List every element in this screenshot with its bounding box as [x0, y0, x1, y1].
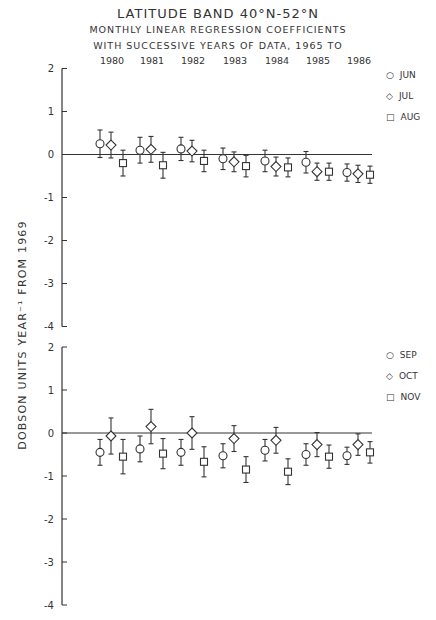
square-marker-icon [285, 164, 292, 171]
legend-item-jul: ◇JUL [386, 85, 420, 106]
y-tick-label: 2 [48, 63, 54, 74]
diamond-marker-icon [312, 440, 322, 450]
diamond-marker-icon [271, 435, 281, 445]
circle-marker-icon [136, 146, 144, 154]
y-tick-label: -1 [44, 192, 54, 203]
diamond-marker-icon [353, 440, 363, 450]
circle-marker-icon [96, 140, 104, 148]
circle-marker-icon [177, 448, 185, 456]
circle-marker-icon [261, 446, 269, 454]
y-tick-label: -4 [44, 321, 54, 332]
circle-marker-icon: ○ [386, 70, 394, 80]
circle-marker-icon [136, 445, 144, 453]
y-tick-label: -3 [44, 278, 54, 289]
circle-marker-icon [343, 452, 351, 460]
square-marker-icon [160, 450, 167, 457]
y-tick-label: -4 [44, 600, 54, 611]
diamond-marker-icon [229, 434, 239, 444]
circle-marker-icon [177, 145, 185, 153]
plot-area: 210-1-2-3-4210-1-2-3-4 [0, 0, 436, 620]
legend-item-nov: □NOV [386, 386, 420, 407]
chart-panel-1: 210-1-2-3-4 [44, 63, 373, 332]
circle-marker-icon [302, 158, 310, 166]
chart-panel-2: 210-1-2-3-4 [44, 342, 373, 611]
legend-item-jun: ○JUN [386, 64, 420, 85]
circle-marker-icon [96, 448, 104, 456]
square-marker-icon [243, 163, 250, 170]
diamond-marker-icon [229, 157, 239, 167]
legend-item-aug: □AUG [386, 106, 420, 127]
y-tick-label: -2 [44, 514, 54, 525]
y-tick-label: -3 [44, 557, 54, 568]
y-tick-label: -1 [44, 471, 54, 482]
legend-top: ○JUN ◇JUL □AUG [386, 64, 420, 127]
diamond-marker-icon [187, 428, 197, 438]
legend-bottom: ○SEP ◇OCT □NOV [386, 344, 420, 407]
diamond-marker-icon [106, 140, 116, 150]
square-marker-icon [120, 160, 127, 167]
y-tick-label: 0 [48, 149, 54, 160]
diamond-marker-icon [312, 167, 322, 177]
y-tick-label: 1 [48, 385, 54, 396]
y-tick-label: 1 [48, 106, 54, 117]
square-marker-icon [285, 468, 292, 475]
legend-item-oct: ◇OCT [386, 365, 420, 386]
square-marker-icon [326, 168, 333, 175]
circle-marker-icon [219, 452, 227, 460]
y-tick-label: 2 [48, 342, 54, 353]
square-marker-icon [326, 453, 333, 460]
square-marker-icon [367, 171, 374, 178]
diamond-marker-icon [271, 162, 281, 172]
diamond-marker-icon [353, 169, 363, 179]
y-tick-label: 0 [48, 428, 54, 439]
circle-marker-icon [261, 157, 269, 165]
diamond-marker-icon [146, 422, 156, 432]
circle-marker-icon [302, 451, 310, 459]
square-marker-icon [160, 162, 167, 169]
square-marker-icon [201, 157, 208, 164]
square-marker-icon: □ [386, 112, 395, 122]
diamond-marker-icon: ◇ [386, 91, 393, 101]
square-marker-icon [367, 449, 374, 456]
circle-marker-icon [219, 155, 227, 163]
square-marker-icon [243, 466, 250, 473]
square-marker-icon [201, 458, 208, 465]
square-marker-icon [120, 453, 127, 460]
legend-item-sep: ○SEP [386, 344, 420, 365]
square-marker-icon: □ [386, 392, 395, 402]
diamond-marker-icon: ◇ [386, 371, 393, 381]
y-tick-label: -2 [44, 235, 54, 246]
diamond-marker-icon [146, 144, 156, 154]
circle-marker-icon [343, 169, 351, 177]
circle-marker-icon: ○ [386, 350, 394, 360]
